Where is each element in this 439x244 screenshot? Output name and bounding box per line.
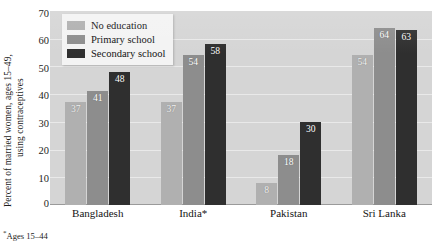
bar-pakistan-no-education[interactable]: 8: [256, 183, 277, 205]
legend-swatch-icon: [67, 21, 85, 30]
bar-bangladesh-no-education[interactable]: 37: [65, 102, 86, 205]
bar-group-pakistan: 8 18 30: [241, 11, 337, 205]
y-axis-title-line-2: using contraceptives: [15, 78, 25, 157]
legend-swatch-icon: [67, 49, 85, 58]
x-label-india: India*: [146, 207, 242, 227]
bar-value-label: 41: [87, 93, 108, 103]
bar-bangladesh-secondary-school[interactable]: 48: [109, 72, 130, 205]
bar-sri-lanka-primary-school[interactable]: 64: [374, 28, 395, 205]
bar-sri-lanka-secondary-school[interactable]: 63: [396, 30, 417, 205]
y-tick-0: 0: [28, 199, 49, 209]
bar-value-label: 8: [256, 185, 277, 195]
y-axis-tick-labels: 70 60 50 40 30 20 10 0: [28, 0, 49, 213]
bar-pakistan-secondary-school[interactable]: 30: [300, 122, 321, 205]
bar-value-label: 64: [374, 30, 395, 40]
bar-india-no-education[interactable]: 37: [161, 102, 182, 205]
bar-chart-figure: Percent of married women, ages 15–49, us…: [0, 0, 439, 244]
bar-group-sri-lanka: 54 64 63: [337, 11, 433, 205]
bar-pakistan-primary-school[interactable]: 18: [278, 155, 299, 205]
x-label-pakistan: Pakistan: [241, 207, 337, 227]
x-label-sri-lanka: Sri Lanka: [337, 207, 433, 227]
legend-label: Secondary school: [91, 48, 165, 59]
y-axis-title-line-1: Percent of married women, ages 15–49,: [3, 54, 13, 207]
bar-value-label: 54: [352, 57, 373, 67]
x-label-bangladesh: Bangladesh: [50, 207, 146, 227]
bar-sri-lanka-no-education[interactable]: 54: [352, 55, 373, 205]
legend-item-secondary-school[interactable]: Secondary school: [67, 46, 165, 60]
bar-india-secondary-school[interactable]: 58: [205, 44, 226, 205]
bar-value-label: 30: [300, 124, 321, 134]
cropped-title: [0, 0, 439, 5]
legend-item-no-education[interactable]: No education: [67, 18, 165, 32]
bar-value-label: 48: [109, 74, 130, 84]
bar-value-label: 54: [183, 57, 204, 67]
footnote-text: Ages 15–44: [7, 231, 48, 241]
legend: No education Primary school Secondary sc…: [62, 14, 173, 65]
footnote: *Ages 15–44: [3, 229, 48, 241]
bar-value-label: 58: [205, 46, 226, 56]
bar-value-label: 18: [278, 157, 299, 167]
y-tick-40: 40: [28, 91, 49, 101]
bar-value-label: 37: [161, 104, 182, 114]
plot-area: 37 41 48 37 54: [50, 11, 432, 205]
bar-value-label: 37: [65, 104, 86, 114]
y-tick-50: 50: [28, 64, 49, 74]
legend-label: Primary school: [91, 34, 155, 45]
y-tick-10: 10: [28, 174, 49, 184]
x-axis-category-labels: Bangladesh India* Pakistan Sri Lanka: [50, 207, 432, 227]
y-tick-30: 30: [28, 119, 49, 129]
legend-item-primary-school[interactable]: Primary school: [67, 32, 165, 46]
bar-value-label: 63: [396, 32, 417, 42]
legend-label: No education: [91, 20, 147, 31]
bar-bangladesh-primary-school[interactable]: 41: [87, 91, 108, 205]
bar-india-primary-school[interactable]: 54: [183, 55, 204, 205]
y-tick-20: 20: [28, 146, 49, 156]
legend-swatch-icon: [67, 35, 85, 44]
y-tick-60: 60: [28, 36, 49, 46]
y-tick-70: 70: [28, 9, 49, 19]
